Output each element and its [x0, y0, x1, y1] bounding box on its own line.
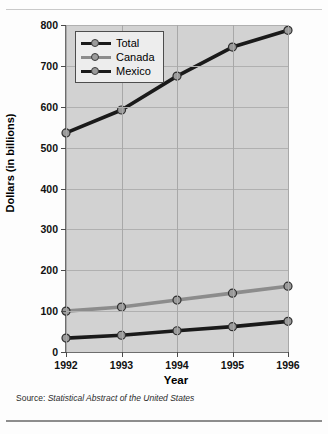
legend-swatch-icon [81, 37, 111, 49]
source-note: Source: Statistical Abstract of the Unit… [16, 393, 194, 403]
legend-item-total: Total [81, 36, 155, 50]
legend-item-canada: Canada [81, 50, 155, 64]
y-axis-tick-label: 500 [40, 142, 58, 154]
y-axis-tick-label: 0 [52, 346, 58, 358]
x-gridline [66, 25, 67, 352]
x-gridline [233, 25, 234, 352]
x-axis-tick [122, 352, 123, 357]
x-axis-tick [177, 352, 178, 357]
x-axis-tick [288, 352, 289, 357]
legend-item-mexico: Mexico [81, 64, 155, 78]
legend-swatch-icon [81, 51, 111, 63]
x-axis-tick-label: 1994 [165, 359, 188, 371]
x-axis-tick [66, 352, 67, 357]
legend-label: Total [116, 37, 139, 49]
y-axis-tick-label: 600 [40, 101, 58, 113]
legend-swatch-icon [81, 65, 111, 77]
x-gridline [177, 25, 178, 352]
x-axis-tick [233, 352, 234, 357]
x-axis-tick-label: 1992 [54, 359, 77, 371]
line-chart-figure: Dollars (in billions) Year 0100200300400… [0, 0, 328, 434]
source-title: Statistical Abstract of the United State… [48, 393, 195, 403]
y-axis-tick-label: 200 [40, 264, 58, 276]
y-axis-tick-label: 400 [40, 183, 58, 195]
x-axis-tick-label: 1996 [276, 359, 299, 371]
y-axis-tick-label: 700 [40, 60, 58, 72]
source-prefix: Source: [16, 393, 45, 403]
y-axis-title: Dollars (in billions) [4, 113, 16, 212]
x-axis-tick-label: 1993 [110, 359, 133, 371]
y-axis-tick-label: 800 [40, 19, 58, 31]
x-axis-tick-label: 1995 [221, 359, 244, 371]
chart-page: Dollars (in billions) Year 0100200300400… [0, 0, 328, 434]
y-axis-tick-label: 300 [40, 223, 58, 235]
x-axis-title: Year [164, 374, 188, 386]
legend-label: Mexico [116, 65, 151, 77]
x-gridline [288, 25, 289, 352]
chart-legend: TotalCanadaMexico [75, 31, 164, 83]
legend-label: Canada [116, 51, 155, 63]
y-axis-tick-label: 100 [40, 305, 58, 317]
